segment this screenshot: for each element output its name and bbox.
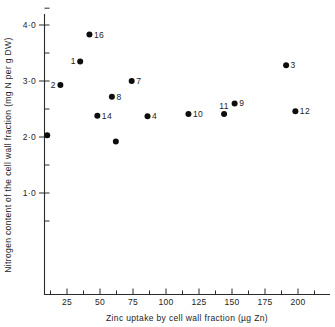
data-point-marker — [232, 100, 238, 106]
data-point: 4 — [145, 111, 158, 121]
data-point-marker — [129, 78, 135, 84]
data-point-label: 14 — [102, 111, 112, 121]
data-point-label: 11 — [219, 101, 228, 111]
data-point — [113, 138, 119, 144]
x-tick-label: 175 — [257, 297, 272, 307]
data-point: 9 — [232, 98, 245, 108]
data-point-marker — [283, 62, 289, 68]
data-point: 2 — [51, 80, 64, 90]
x-axis-title: Zinc uptake by cell wall fraction (µg Zn… — [106, 313, 268, 323]
x-axis-tick-labels: 255075100125150175200 — [62, 297, 306, 307]
plot-canvas: 1·02·03·04·0 255075100125150175200 21161… — [0, 0, 335, 327]
data-point: 12 — [292, 106, 310, 116]
scatter-plot-figure: 1·02·03·04·0 255075100125150175200 21161… — [0, 0, 335, 327]
y-axis-tick-labels: 1·02·03·04·0 — [23, 20, 36, 198]
data-point — [44, 132, 50, 138]
data-point: 3 — [283, 60, 296, 70]
data-point-marker — [44, 132, 50, 138]
x-tick-label: 50 — [95, 297, 105, 307]
data-point-label: 12 — [300, 106, 310, 116]
data-point: 7 — [129, 76, 142, 86]
data-point-group: 21161487410119312 — [44, 30, 310, 145]
data-point-label: 1 — [71, 56, 76, 66]
data-point-marker — [185, 111, 191, 117]
data-point-marker — [57, 82, 63, 88]
x-tick-label: 200 — [290, 297, 305, 307]
data-point-label: 16 — [94, 30, 104, 40]
data-point-marker — [77, 58, 83, 64]
data-point-marker — [94, 113, 100, 119]
y-axis-title: Nitrogen content of the cell wall fracti… — [3, 37, 13, 272]
data-point-label: 8 — [116, 92, 121, 102]
data-point-label: 2 — [51, 80, 56, 90]
data-point-marker — [113, 138, 119, 144]
data-point: 10 — [185, 109, 203, 119]
data-point: 11 — [219, 101, 228, 118]
x-tick-label: 100 — [158, 297, 173, 307]
x-tick-label: 75 — [128, 297, 138, 307]
data-point-marker — [292, 108, 298, 114]
data-point-marker — [86, 32, 92, 38]
data-point-label: 10 — [193, 109, 203, 119]
data-point-label: 9 — [239, 98, 244, 108]
data-point-label: 4 — [152, 111, 157, 121]
data-point-marker — [109, 94, 115, 100]
x-tick-label: 150 — [224, 297, 239, 307]
x-tick-label: 125 — [191, 297, 206, 307]
y-tick-label: 2·0 — [23, 132, 36, 142]
y-tick-label: 1·0 — [23, 188, 36, 198]
data-point-label: 3 — [291, 60, 296, 70]
data-point: 14 — [94, 111, 112, 121]
data-point-marker — [221, 111, 227, 117]
x-axis-ticks — [51, 289, 315, 295]
data-point-label: 7 — [136, 76, 141, 86]
y-tick-label: 3·0 — [23, 76, 36, 86]
data-point-marker — [145, 113, 151, 119]
data-point: 8 — [109, 92, 122, 102]
data-point: 16 — [86, 30, 104, 40]
y-tick-label: 4·0 — [23, 20, 36, 30]
data-point: 1 — [71, 56, 84, 66]
x-tick-label: 25 — [62, 297, 72, 307]
